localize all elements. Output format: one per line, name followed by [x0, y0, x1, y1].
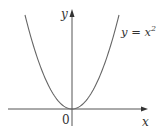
y-axis-arrow-icon	[70, 9, 75, 17]
x-axis-label: x	[142, 116, 149, 128]
chart-canvas	[0, 0, 158, 132]
x-axis-arrow-icon	[141, 107, 148, 112]
curve-equation-base: y = x	[121, 25, 151, 39]
origin-label: 0	[62, 114, 70, 126]
parabola-figure: y x 0 y = x2	[0, 0, 158, 132]
curve-equation-exponent: 2	[151, 24, 156, 33]
y-axis-label: y	[61, 8, 68, 20]
curve-equation-label: y = x2	[121, 25, 156, 39]
